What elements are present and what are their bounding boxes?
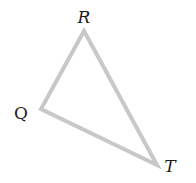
vertex-label-r: R bbox=[77, 7, 91, 27]
triangle-qrt bbox=[41, 31, 157, 165]
vertex-label-q: Q bbox=[14, 103, 28, 123]
triangle-diagram: R Q T bbox=[0, 0, 196, 183]
vertex-label-t: T bbox=[164, 156, 177, 176]
